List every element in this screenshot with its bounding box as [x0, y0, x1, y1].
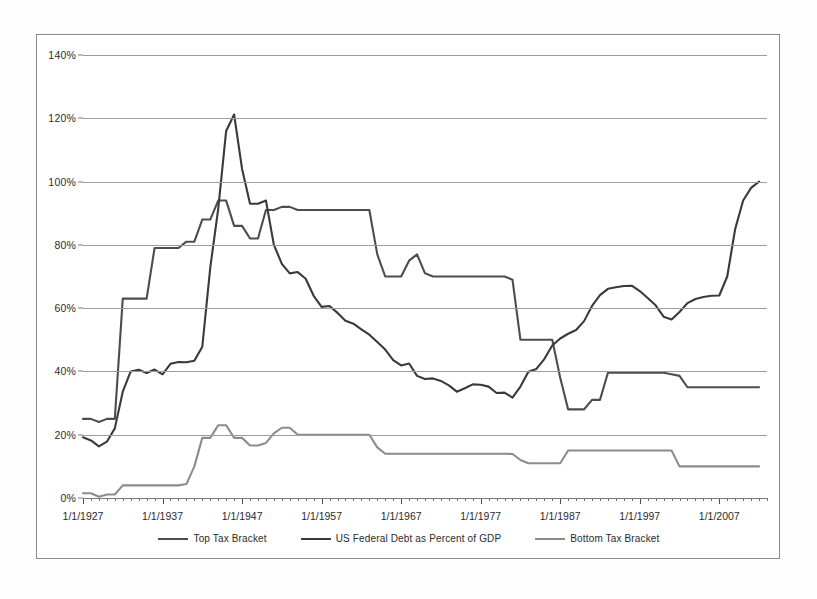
series-line: [83, 114, 759, 446]
plot-area: 0%20%40%60%80%100%120%140%1/1/19271/1/19…: [83, 55, 767, 498]
legend-line-swatch: [158, 538, 188, 540]
y-axis-tick: [78, 181, 83, 182]
y-axis-tick: [78, 434, 83, 435]
x-axis-label: 1/1/2007: [699, 510, 740, 522]
y-axis-label: 140%: [48, 49, 76, 61]
y-axis-tick: [78, 498, 83, 499]
legend-item[interactable]: Bottom Tax Bracket: [535, 533, 659, 544]
y-axis-label: 20%: [54, 429, 76, 441]
y-axis-label: 80%: [54, 239, 76, 251]
plot-wrapper: 0%20%40%60%80%100%120%140%1/1/19271/1/19…: [37, 35, 781, 560]
y-axis-tick: [78, 308, 83, 309]
y-axis-tick: [78, 118, 83, 119]
x-axis-label: 1/1/1977: [460, 510, 501, 522]
chart-figure-frame: 0%20%40%60%80%100%120%140%1/1/19271/1/19…: [36, 34, 780, 559]
legend-label: Top Tax Bracket: [193, 533, 266, 544]
legend-item[interactable]: US Federal Debt as Percent of GDP: [301, 533, 502, 544]
x-axis-label: 1/1/1967: [381, 510, 422, 522]
x-axis-minor-tick: [767, 498, 768, 501]
x-axis-label: 1/1/1987: [540, 510, 581, 522]
x-axis-label: 1/1/1947: [222, 510, 263, 522]
gridline-120: [83, 118, 767, 119]
y-axis-label: 120%: [48, 112, 76, 124]
series-line: [83, 201, 759, 423]
gridline-0: [83, 498, 767, 499]
series-layer: [83, 55, 767, 498]
gridline-20: [83, 435, 767, 436]
gridline-100: [83, 182, 767, 183]
x-axis-label: 1/1/1937: [142, 510, 183, 522]
x-axis-label: 1/1/1957: [301, 510, 342, 522]
y-axis-label: 0%: [60, 492, 76, 504]
y-axis-tick: [78, 371, 83, 372]
gridline-140: [83, 55, 767, 56]
legend-label: Bottom Tax Bracket: [570, 533, 659, 544]
legend-line-swatch: [535, 538, 565, 540]
y-axis-label: 60%: [54, 302, 76, 314]
gridline-80: [83, 245, 767, 246]
x-axis-label: 1/1/1927: [63, 510, 104, 522]
gridline-40: [83, 371, 767, 372]
y-axis-label: 100%: [48, 176, 76, 188]
chart-legend: Top Tax BracketUS Federal Debt as Percen…: [37, 533, 781, 544]
legend-line-swatch: [301, 538, 331, 540]
y-axis-tick: [78, 55, 83, 56]
y-axis-tick: [78, 244, 83, 245]
legend-label: US Federal Debt as Percent of GDP: [336, 533, 502, 544]
series-line: [83, 425, 759, 497]
x-axis-label: 1/1/1997: [619, 510, 660, 522]
legend-item[interactable]: Top Tax Bracket: [158, 533, 266, 544]
y-axis-label: 40%: [54, 365, 76, 377]
gridline-60: [83, 308, 767, 309]
